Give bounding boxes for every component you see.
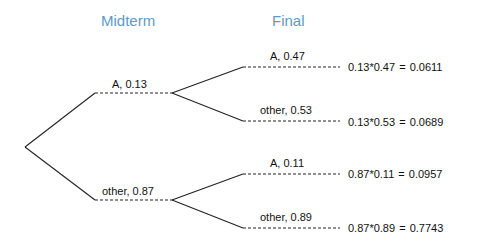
final-result-3: 0.87*0.11 = 0.0957 (348, 168, 442, 180)
midterm-branch-other-label: other, 0.87 (102, 185, 154, 197)
midterm-header: Midterm (101, 12, 155, 29)
final-result-4: 0.87*0.89 = 0.7743 (348, 222, 443, 234)
final-result-1: 0.13*0.47 = 0.0611 (348, 61, 442, 73)
final-result-2: 0.13*0.53 = 0.0689 (348, 116, 443, 128)
final-branch-4-label: other, 0.89 (260, 211, 312, 223)
final-branch-1-label: A, 0.47 (270, 50, 305, 62)
final-header: Final (272, 12, 305, 29)
final-branch-3-label: A, 0.11 (270, 157, 304, 169)
midterm-branch-a-label: A, 0.13 (112, 78, 147, 90)
final-branch-2-label: other, 0.53 (260, 104, 312, 116)
